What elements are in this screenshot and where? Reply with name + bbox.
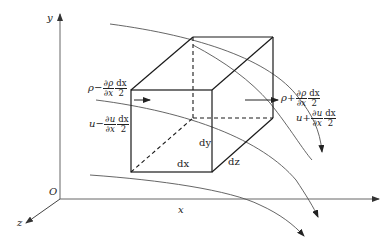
z-axis	[26, 199, 60, 223]
fraction-denominator: 2	[308, 99, 320, 108]
right-density-partial-fraction: ∂ρ ∂x	[296, 89, 307, 108]
left-density-partial-fraction: ∂ρ ∂x	[103, 79, 114, 98]
box-hidden-edges	[131, 37, 273, 172]
dz-label: dz	[228, 157, 240, 167]
dy-label: dy	[199, 138, 211, 148]
fraction-denominator: ∂x	[311, 119, 323, 128]
edge-top-left-diag	[131, 37, 193, 90]
right-density-half-fraction: dx 2	[308, 89, 320, 108]
left-velocity-expression: u − ∂u ∂x dx 2	[89, 115, 130, 134]
right-velocity-expression: u + ∂u ∂x dx 2	[296, 109, 337, 128]
z-axis-label: z	[17, 218, 22, 228]
edge-top-right-diag	[212, 37, 273, 90]
right-density-sign: +	[287, 93, 295, 103]
left-density-expression: ρ − ∂ρ ∂x dx 2	[88, 79, 128, 98]
right-density-expression: ρ + ∂ρ ∂x dx 2	[281, 89, 321, 108]
box-front-face	[131, 90, 212, 172]
fraction-denominator: ∂x	[104, 125, 116, 134]
dx-label: dx	[177, 159, 189, 169]
box-visible-edges	[131, 37, 273, 172]
right-velocity-sign: +	[302, 113, 310, 123]
left-density-half-fraction: dx 2	[115, 79, 127, 98]
streamline-1	[110, 24, 322, 152]
fraction-denominator: ∂x	[296, 99, 307, 108]
edge-bottom-right-diag	[212, 118, 273, 172]
left-velocity-half-fraction: dx 2	[117, 115, 129, 134]
origin-label: O	[49, 187, 57, 197]
fraction-denominator: ∂x	[103, 89, 114, 98]
fraction-denominator: 2	[117, 125, 129, 134]
streamline-3	[90, 175, 304, 236]
left-velocity-sign: −	[95, 119, 103, 129]
fraction-denominator: 2	[324, 119, 336, 128]
left-velocity-partial-fraction: ∂u ∂x	[104, 115, 116, 134]
left-density-sign: −	[94, 83, 102, 93]
x-axis-label: x	[178, 205, 184, 215]
fraction-denominator: 2	[115, 89, 127, 98]
right-velocity-half-fraction: dx 2	[324, 109, 336, 128]
right-velocity-partial-fraction: ∂u ∂x	[311, 109, 323, 128]
y-axis-label: y	[47, 13, 53, 23]
